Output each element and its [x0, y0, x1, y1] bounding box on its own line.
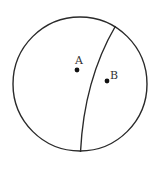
point-a-dot: [75, 68, 80, 73]
point-b-label: B: [110, 70, 118, 81]
outer-circle: [13, 17, 147, 151]
diagram-canvas: A B: [0, 0, 158, 169]
dividing-curve: [81, 26, 116, 152]
point-a-label: A: [75, 55, 83, 66]
diagram-svg: [0, 0, 158, 169]
point-b-dot: [105, 79, 110, 84]
